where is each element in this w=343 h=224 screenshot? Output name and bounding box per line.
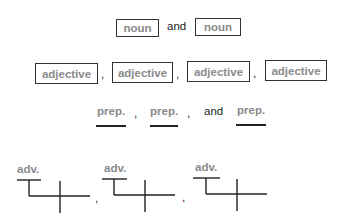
adverb-label-2: adv. — [104, 162, 126, 174]
comma: , — [95, 192, 98, 204]
adverb-diagram-lines — [0, 0, 343, 224]
adverb-label-3: adv. — [195, 161, 217, 173]
comma: , — [182, 191, 185, 203]
adverb-label-1: adv. — [17, 163, 39, 175]
